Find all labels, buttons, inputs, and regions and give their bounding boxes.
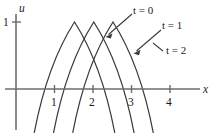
x-axis-label: x [202, 83, 209, 95]
x-tick-label-4: 4 [166, 96, 172, 108]
x-tick-label-1: 1 [51, 96, 57, 108]
wave-plot-figure: u x 1 1 2 3 4 t = 0 t = 1 t = 2 [0, 0, 218, 133]
curve-group [34, 22, 153, 133]
plot-canvas: u x 1 1 2 3 4 t = 0 t = 1 t = 2 [0, 0, 218, 133]
axes-group [5, 14, 200, 130]
series-label-t0: t = 0 [133, 4, 154, 16]
arrow-line-t2 [153, 43, 163, 51]
annotation-arrows [106, 14, 164, 55]
y-axis-label: u [19, 2, 25, 14]
x-tick-label-3: 3 [128, 96, 134, 108]
y-tick-label-1: 1 [3, 16, 9, 28]
x-tick-label-2: 2 [89, 96, 95, 108]
series-label-t1: t = 1 [162, 19, 182, 31]
series-label-t2: t = 2 [166, 44, 186, 56]
curve-t0 [34, 22, 114, 133]
arrow-line-t1 [137, 30, 162, 51]
